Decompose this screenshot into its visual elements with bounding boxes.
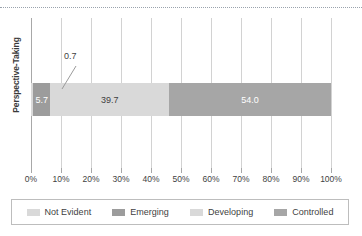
x-axis-tick-label: 20% — [74, 174, 108, 184]
legend-item-developing[interactable]: Developing — [190, 207, 253, 217]
bar-segment-value-label: 5.7 — [35, 95, 48, 105]
legend-item-emerging[interactable]: Emerging — [112, 207, 169, 217]
x-axis-tick — [151, 168, 152, 173]
legend-item-controlled[interactable]: Controlled — [274, 207, 333, 217]
top-divider — [0, 7, 362, 8]
x-axis-tick — [181, 168, 182, 173]
legend-swatch-icon — [274, 209, 287, 216]
legend-swatch-icon — [190, 209, 203, 216]
stacked-bar-chart: Perspective-Taking 0%10%20%30%40%50%60%7… — [0, 12, 362, 192]
callout-label-not-evident: 0.7 — [64, 51, 77, 61]
x-axis-tick-label: 100% — [314, 174, 348, 184]
legend-item-label: Developing — [208, 207, 253, 217]
x-axis-tick-label: 80% — [254, 174, 288, 184]
x-axis-tick-label: 50% — [164, 174, 198, 184]
legend-item-not-evident[interactable]: Not Evident — [27, 207, 92, 217]
bar-perspective-taking[interactable]: 5.739.754.0 — [31, 83, 331, 116]
bar-segment-developing[interactable]: 39.7 — [50, 83, 169, 116]
y-axis-title: Perspective-Taking — [11, 15, 21, 135]
x-axis-tick-label: 60% — [194, 174, 228, 184]
x-axis-tick-label: 10% — [44, 174, 78, 184]
legend-item-label: Not Evident — [45, 207, 92, 217]
bar-segment-emerging[interactable]: 5.7 — [33, 83, 50, 116]
bar-segment-value-label: 39.7 — [101, 95, 119, 105]
x-axis-tick — [121, 168, 122, 173]
x-axis-tick-label: 70% — [224, 174, 258, 184]
x-axis-tick — [91, 168, 92, 173]
bar-segment-value-label: 54.0 — [241, 95, 259, 105]
x-axis-tick-label: 30% — [104, 174, 138, 184]
legend-item-label: Controlled — [292, 207, 333, 217]
x-axis-tick — [241, 168, 242, 173]
chart-legend: Not EvidentEmergingDevelopingControlled — [11, 199, 349, 225]
bar-segment-controlled[interactable]: 54.0 — [169, 83, 331, 116]
x-axis-tick — [31, 168, 32, 173]
x-axis-tick — [271, 168, 272, 173]
x-axis-tick — [331, 168, 332, 173]
x-axis-tick-label: 40% — [134, 174, 168, 184]
x-axis-tick — [301, 168, 302, 173]
gridline — [331, 18, 332, 168]
x-axis-tick-label: 90% — [284, 174, 318, 184]
legend-swatch-icon — [112, 209, 125, 216]
x-axis-tick-label: 0% — [14, 174, 48, 184]
legend-item-label: Emerging — [130, 207, 169, 217]
x-axis-tick — [211, 168, 212, 173]
plot-area: 0%10%20%30%40%50%60%70%80%90%100% 5.739.… — [31, 18, 331, 168]
x-axis-tick — [61, 168, 62, 173]
legend-swatch-icon — [27, 209, 40, 216]
